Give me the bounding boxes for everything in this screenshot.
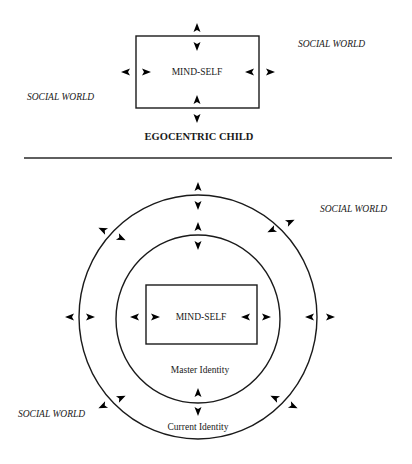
double-arrow-icon: [241, 314, 271, 321]
social-world-label: SOCIAL WORLD: [320, 204, 387, 214]
identity-rings-diagram: MIND-SELF Master Identity Current Identi…: [18, 182, 387, 439]
social-world-label: SOCIAL WORLD: [298, 39, 365, 49]
double-arrow-icon: [65, 314, 95, 321]
double-arrow-icon: [194, 95, 201, 123]
double-arrow-icon: [194, 23, 201, 51]
double-arrow-icon: [195, 388, 202, 416]
double-arrow-icon: [245, 69, 275, 76]
double-arrow-icon: [130, 314, 160, 321]
social-world-label: SOCIAL WORLD: [27, 92, 94, 102]
mind-self-label: MIND-SELF: [172, 67, 223, 77]
current-identity-label: Current Identity: [168, 422, 229, 432]
double-arrow-icon: [305, 314, 335, 321]
egocentric-child-diagram: MIND-SELF EGOCENTRIC CHILD SOCIAL WORLD …: [27, 23, 365, 142]
master-identity-label: Master Identity: [171, 365, 230, 375]
mind-self-label: MIND-SELF: [176, 312, 227, 322]
double-arrow-icon: [195, 222, 202, 250]
double-arrow-icon: [195, 182, 202, 210]
egocentric-child-caption: EGOCENTRIC CHILD: [145, 131, 254, 142]
double-arrow-icon: [97, 224, 127, 243]
social-world-label: SOCIAL WORLD: [18, 409, 85, 419]
identity-diagram: MIND-SELF EGOCENTRIC CHILD SOCIAL WORLD …: [0, 0, 412, 464]
